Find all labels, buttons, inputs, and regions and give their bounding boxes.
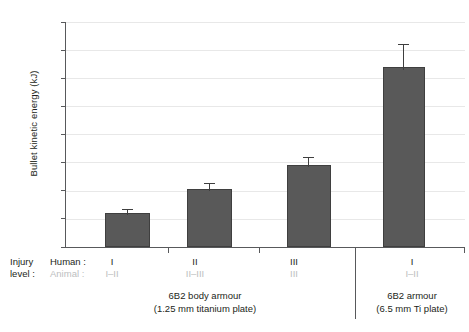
plot-area	[65, 22, 465, 247]
x-axis-line	[65, 247, 465, 248]
group-caption-1-line-1: 6B2 body armour	[60, 290, 350, 303]
y-axis-line	[65, 22, 66, 248]
x-tick-mark-2	[259, 248, 260, 253]
gridline-1.4	[65, 50, 465, 51]
injury-level-line-1: Injury	[10, 256, 35, 268]
error-bar-cap-2	[204, 183, 215, 184]
error-bar-cap-4	[398, 44, 409, 45]
error-bar-cap-3	[303, 157, 314, 158]
injury-level-line-2: level :	[10, 268, 35, 280]
x-tick-mark-3	[464, 248, 465, 253]
bar-4	[383, 67, 425, 247]
category-label-block: Injury level : Human : Animal : I II III…	[0, 255, 469, 332]
group-caption-1: 6B2 body armour (1.25 mm titanium plate)	[60, 290, 350, 315]
cell-animal-1: I–II	[82, 268, 142, 280]
row-header-animal: Animal :	[50, 268, 84, 280]
error-bar-stem-4	[403, 44, 404, 70]
group-caption-2-line-2: (6.5 mm Ti plate)	[358, 303, 466, 316]
bar-2	[187, 189, 232, 247]
cell-animal-3: III	[264, 268, 324, 280]
cell-human-1: I	[82, 256, 142, 268]
cell-human-2: II	[165, 256, 225, 268]
cell-human-3: III	[264, 256, 324, 268]
y-axis-title: Bullet kinetic energy (kJ)	[28, 29, 39, 219]
row-header-human: Human :	[50, 256, 86, 268]
error-bar-cap-1	[122, 209, 133, 210]
cell-animal-4: I–II	[382, 268, 442, 280]
gridline-1.6	[65, 22, 465, 23]
cell-animal-2: II–III	[165, 268, 225, 280]
error-bar-stem-2	[209, 183, 210, 191]
x-tick-mark-1	[168, 248, 169, 253]
bar-3	[287, 165, 331, 247]
bar-chart-figure: Bullet kinetic energy (kJ) 1.6 1.4 1.2 1…	[0, 0, 469, 332]
error-bar-stem-3	[308, 157, 309, 167]
group-caption-2-line-1: 6B2 armour	[358, 290, 466, 303]
bar-1	[105, 213, 150, 247]
group-caption-1-line-2: (1.25 mm titanium plate)	[60, 303, 350, 316]
group-caption-2: 6B2 armour (6.5 mm Ti plate)	[358, 290, 466, 315]
cell-human-4: I	[382, 256, 442, 268]
injury-level-header: Injury level :	[10, 256, 35, 280]
